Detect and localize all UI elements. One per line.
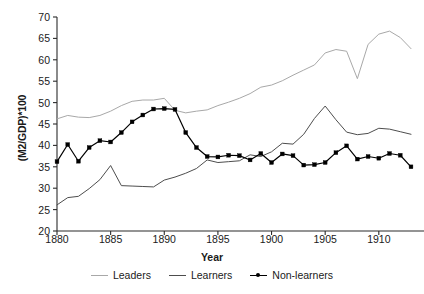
legend-swatch-icon xyxy=(91,271,108,280)
x-axis-tick-labels: 1880188518901895190019051910 xyxy=(0,0,424,294)
x-tick-1910: 1910 xyxy=(359,233,399,245)
legend-item-leaders[interactable]: Leaders xyxy=(91,269,151,281)
legend-item-non-learners[interactable]: Non-learners xyxy=(250,269,333,281)
legend-swatch-icon xyxy=(250,271,267,280)
x-tick-1885: 1885 xyxy=(91,233,131,245)
x-tick-1900: 1900 xyxy=(252,233,292,245)
chart-figure: 2025303540455055606570 18801885189018951… xyxy=(0,0,424,294)
legend-label: Non-learners xyxy=(272,269,333,281)
x-tick-1905: 1905 xyxy=(305,233,345,245)
x-tick-1895: 1895 xyxy=(198,233,238,245)
x-tick-1880: 1880 xyxy=(37,233,77,245)
y-axis-title: (M2/GDP)*100 xyxy=(16,48,28,208)
x-tick-1890: 1890 xyxy=(144,233,184,245)
legend-label: Learners xyxy=(191,269,232,281)
legend-swatch-icon xyxy=(169,271,186,280)
chart-legend: LeadersLearnersNon-learners xyxy=(0,269,424,281)
legend-label: Leaders xyxy=(113,269,151,281)
legend-item-learners[interactable]: Learners xyxy=(169,269,232,281)
x-axis-title: Year xyxy=(0,251,424,263)
